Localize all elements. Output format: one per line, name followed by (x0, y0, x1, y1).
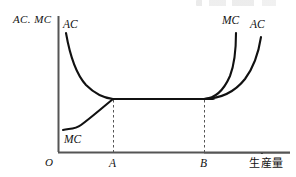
mc-curve-left (63, 99, 113, 130)
origin-label: O (45, 157, 53, 168)
y-axis-label: AC. MC (13, 14, 51, 25)
right-branch-group (204, 33, 261, 99)
ac-curve-label-right: AC (250, 19, 265, 31)
mc-curve-label-right: MC (222, 15, 239, 27)
cost-curve-figure: AC. MC AC MC MC AC O A B 生産量 (0, 0, 296, 177)
x-tick-label-a: A (109, 158, 116, 170)
below-flat-mask (204, 100, 296, 153)
mc-right-riser (204, 33, 236, 99)
x-axis-label: 生産量 (249, 158, 284, 169)
mc-curve-label-left: MC (64, 134, 81, 146)
x-tick-label-b: B (200, 158, 207, 170)
ac-curve-label-left: AC (63, 19, 78, 31)
